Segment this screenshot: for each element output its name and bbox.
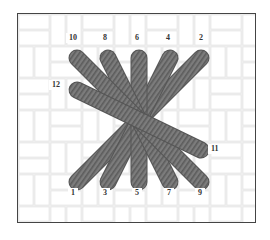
stitch-number-4: 4	[163, 33, 173, 43]
stitch-number-5: 5	[132, 188, 142, 198]
stitch-number-7: 7	[164, 188, 174, 198]
stitch-number-12: 12	[49, 80, 63, 90]
stitch-number-9: 9	[195, 188, 205, 198]
stitch-number-3: 3	[100, 188, 110, 198]
stitch-number-8: 8	[100, 33, 110, 43]
stitch-number-10: 10	[66, 33, 80, 43]
stitch-number-6: 6	[132, 33, 142, 43]
stitch-number-1: 1	[68, 188, 78, 198]
stitch-number-2: 2	[196, 33, 206, 43]
stitch-number-11: 11	[208, 144, 222, 154]
